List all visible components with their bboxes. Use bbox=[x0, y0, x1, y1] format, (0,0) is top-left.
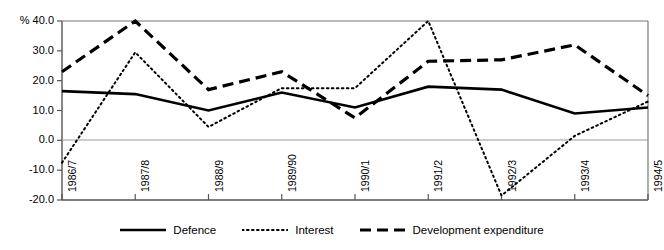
y-tick-label: 10.0 bbox=[33, 105, 54, 116]
y-tick-label: 30.0 bbox=[33, 45, 54, 56]
series-line-development-expenditure bbox=[62, 21, 648, 118]
x-tick-marks bbox=[62, 194, 648, 200]
y-tick-label: 20.0 bbox=[33, 75, 54, 86]
y-tick-label: % 40.0 bbox=[20, 15, 54, 26]
legend-label: Development expenditure bbox=[413, 224, 544, 236]
legend-swatch-dashed bbox=[360, 225, 406, 235]
x-tick-label: 1992/3 bbox=[507, 160, 517, 192]
legend-swatch-dotted bbox=[242, 225, 288, 235]
x-tick-label: 1986/7 bbox=[67, 160, 77, 192]
legend-item-interest[interactable]: Interest bbox=[242, 224, 333, 236]
legend-item-development-expenditure[interactable]: Development expenditure bbox=[360, 224, 544, 236]
legend-item-defence[interactable]: Defence bbox=[120, 224, 216, 236]
x-tick-label: 1988/9 bbox=[214, 160, 224, 192]
y-tick-label: -10.0 bbox=[29, 164, 54, 175]
x-tick-label: 1989/90 bbox=[287, 154, 297, 192]
y-tick-marks bbox=[57, 21, 62, 200]
chart-legend: DefenceInterestDevelopment expenditure bbox=[0, 224, 664, 236]
legend-swatch-solid bbox=[120, 225, 166, 235]
x-tick-label: 1993/4 bbox=[580, 160, 590, 192]
chart-plot-area bbox=[0, 0, 664, 250]
x-tick-label: 1991/2 bbox=[433, 160, 443, 192]
x-tick-label: 1990/1 bbox=[360, 160, 370, 192]
legend-label: Interest bbox=[295, 224, 333, 236]
series-line-defence bbox=[62, 87, 648, 114]
chart-container: % 40.030.020.010.00.0-10.0-20.0 1986/719… bbox=[0, 0, 664, 250]
x-tick-label: 1987/8 bbox=[140, 160, 150, 192]
legend-label: Defence bbox=[173, 224, 216, 236]
y-tick-label: -20.0 bbox=[29, 194, 54, 205]
x-tick-label: 1994/5 bbox=[653, 160, 663, 192]
y-tick-label: 0.0 bbox=[39, 134, 54, 145]
